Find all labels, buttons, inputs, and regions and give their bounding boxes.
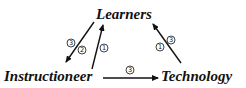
diagram-canvas: Learners Instructioneer Technology 3 2 1…	[0, 0, 246, 88]
node-technology: Technology	[161, 68, 232, 84]
badge-2-left-text: 2	[80, 46, 84, 54]
badge-1-right: 1	[156, 43, 164, 51]
badge-1-center: 1	[100, 44, 108, 52]
badge-3-bottom-text: 3	[128, 66, 132, 74]
badge-3-bottom: 3	[126, 66, 134, 74]
badge-3-right-text: 3	[169, 36, 173, 44]
badge-3-left: 3	[67, 39, 75, 47]
badge-3-right: 3	[167, 36, 175, 44]
node-learners: Learners	[95, 6, 152, 22]
badge-3-left-text: 3	[69, 39, 73, 47]
badge-1-center-text: 1	[102, 44, 106, 52]
badge-2-left: 2	[78, 46, 86, 54]
node-instructioneer: Instructioneer	[3, 68, 93, 84]
badge-1-right-text: 1	[158, 43, 162, 51]
